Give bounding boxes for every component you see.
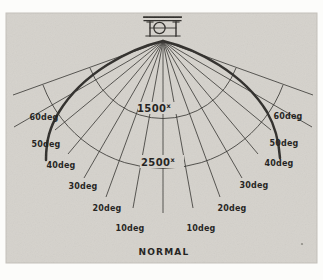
photo-grain-overlay xyxy=(6,13,317,263)
photometric-diagram: 1500x 2500x 60deg 50deg 40deg 30deg 20de… xyxy=(0,0,323,280)
scanned-figure-page: 1500x 2500x 60deg 50deg 40deg 30deg 20de… xyxy=(0,0,323,280)
